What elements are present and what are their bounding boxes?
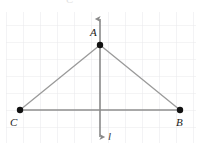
- point-B-dot: [177, 107, 183, 113]
- point-C-label: C: [10, 116, 18, 128]
- point-C-dot: [17, 107, 23, 113]
- figure-canvas: A C B l: [0, 0, 201, 149]
- grid-background: [6, 12, 196, 143]
- point-A-dot: [97, 42, 103, 48]
- point-B-label: B: [176, 116, 183, 128]
- point-A-label: A: [89, 26, 97, 38]
- geometry-figure: C A C B l: [0, 0, 201, 149]
- line-l-label: l: [108, 130, 111, 142]
